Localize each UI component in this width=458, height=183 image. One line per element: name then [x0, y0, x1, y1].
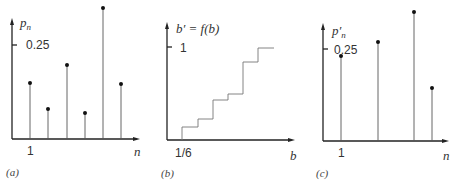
panel-a: 0.25 pn 1 n (a): [6, 6, 141, 179]
x-axis-arrow-icon: [133, 137, 140, 141]
caption: (c): [316, 167, 329, 180]
y-axis-label: p′n: [331, 23, 346, 40]
x-tick-label: 1: [338, 146, 345, 160]
x-axis-label: n: [134, 144, 141, 159]
x-axis-label: n: [443, 148, 450, 163]
figure: 0.25 pn 1 n (a) 1 b′ = f(b) 1/6 b (b) 0.…: [0, 0, 458, 183]
step-function: [182, 48, 274, 140]
caption: (b): [161, 167, 174, 180]
x-axis-label: b: [290, 148, 297, 163]
y-tick-label: 0.25: [334, 43, 358, 57]
y-tick-label: 0.25: [26, 38, 50, 52]
y-tick-label: 1: [180, 41, 187, 55]
y-axis-label: pn: [19, 15, 32, 32]
x-axis-arrow-icon: [288, 138, 295, 142]
x-axis-arrow-icon: [442, 139, 449, 143]
x-tick-label: 1/6: [175, 146, 192, 160]
caption: (a): [6, 166, 19, 179]
y-axis-arrow-icon: [165, 22, 169, 29]
y-axis-label: b′ = f(b): [176, 21, 219, 36]
x-tick-label: 1: [27, 144, 34, 158]
y-axis-arrow-icon: [10, 18, 14, 25]
panel-b: 1 b′ = f(b) 1/6 b (b): [161, 21, 297, 180]
panel-c: 0.25 p′n 1 n (c): [316, 10, 450, 180]
y-axis-arrow-icon: [321, 23, 325, 30]
